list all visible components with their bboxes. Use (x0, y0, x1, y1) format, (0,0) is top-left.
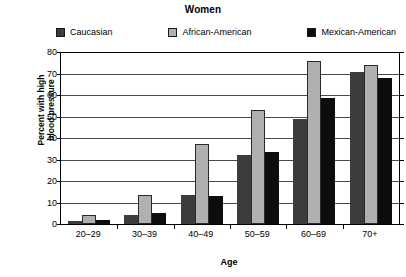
y-axis-tick-label: 60 (47, 90, 57, 100)
legend-swatch-icon (56, 28, 65, 37)
bar (378, 78, 392, 224)
legend-item-mexican-american: Mexican-American (307, 27, 396, 37)
x-axis-tick-label: 20–29 (60, 229, 116, 239)
bar (124, 215, 138, 224)
bar (82, 215, 96, 224)
x-axis-tick-label: 40–49 (173, 229, 229, 239)
bar-groups (61, 52, 399, 224)
y-axis-label-line-1: Percent with high (36, 26, 46, 194)
bar (364, 65, 378, 224)
y-axis-tick-label: 30 (47, 155, 57, 165)
legend-swatch-icon (307, 28, 316, 37)
bar (265, 152, 279, 224)
bar (209, 196, 223, 224)
bar-chart-figure: Women Caucasian African-American Mexican… (0, 0, 406, 277)
y-axis-tick-mark (57, 224, 61, 225)
chart-legend: Caucasian African-American Mexican-Ameri… (56, 25, 396, 39)
y-axis-tick-label: 80 (47, 47, 57, 57)
bar (152, 213, 166, 224)
y-axis-tick-mark-right (399, 117, 404, 118)
y-axis-tick-label: 10 (47, 198, 57, 208)
bar (350, 72, 364, 224)
legend-item-caucasian: Caucasian (56, 27, 113, 37)
y-axis-tick-mark-right (399, 203, 404, 204)
legend-swatch-icon (168, 28, 177, 37)
bar-group (117, 52, 173, 224)
x-axis-label: Age (60, 257, 398, 267)
y-axis-tick-label: 20 (47, 176, 57, 186)
legend-label: Mexican-American (321, 27, 396, 37)
x-axis-tick-labels: 20–2930–3940–4950–5960–6970+ (60, 229, 398, 239)
bar (251, 110, 265, 224)
bar (68, 221, 82, 224)
bar (181, 195, 195, 224)
legend-label: African-American (182, 27, 251, 37)
y-axis-tick-mark-right (399, 181, 404, 182)
y-axis-tick-mark-right (399, 138, 404, 139)
y-axis-tick-label: 70 (47, 69, 57, 79)
bar (96, 220, 110, 224)
legend-item-african-american: African-American (168, 27, 251, 37)
y-axis-tick-mark-right (399, 74, 404, 75)
bar-group (286, 52, 342, 224)
x-axis-tick-label: 70+ (342, 229, 398, 239)
bar (138, 195, 152, 224)
bar-group (230, 52, 286, 224)
bar (321, 98, 335, 224)
y-axis-tick-mark-right (399, 160, 404, 161)
bar (307, 61, 321, 224)
x-axis-tick-label: 60–69 (285, 229, 341, 239)
x-axis-tick-label: 30–39 (116, 229, 172, 239)
x-axis-tick-label: 50–59 (229, 229, 285, 239)
bar-group (174, 52, 230, 224)
bar-group (61, 52, 117, 224)
y-axis-tick-mark-right (399, 52, 404, 53)
bar (195, 144, 209, 224)
bar-group (343, 52, 399, 224)
y-axis-tick-mark-right (399, 224, 404, 225)
y-axis-tick-label: 40 (47, 133, 57, 143)
plot-area: 01020304050607080 (60, 52, 400, 225)
chart-title: Women (0, 4, 406, 15)
y-axis-tick-mark-right (399, 95, 404, 96)
y-axis-tick-label: 50 (47, 112, 57, 122)
bar (237, 155, 251, 224)
legend-label: Caucasian (70, 27, 113, 37)
bar (293, 119, 307, 224)
